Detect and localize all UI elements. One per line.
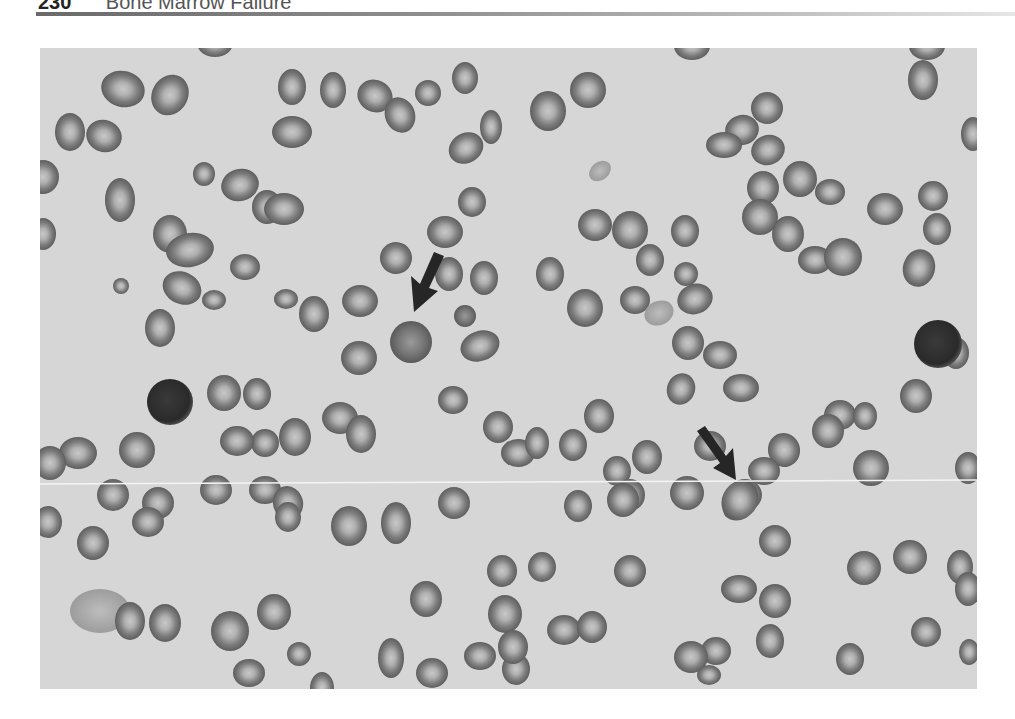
spherocyte: [274, 289, 298, 309]
red-blood-cell: [612, 211, 648, 249]
red-blood-cell: [381, 502, 411, 544]
red-blood-cell: [279, 418, 311, 456]
red-blood-cell: [607, 483, 639, 517]
red-blood-cell: [257, 594, 291, 630]
red-blood-cell: [564, 490, 592, 522]
running-head: 230 Bone Marrow Failure: [38, 0, 291, 11]
red-blood-cell: [867, 193, 903, 225]
red-blood-cell: [614, 555, 646, 587]
red-blood-cell: [570, 72, 606, 108]
red-blood-cell: [530, 91, 566, 131]
red-blood-cell: [427, 216, 463, 248]
macrocyte: [454, 305, 476, 327]
spherocyte: [230, 254, 260, 280]
blood-smear-figure: [40, 48, 977, 689]
spherocyte: [202, 290, 226, 310]
red-blood-cell: [703, 341, 737, 369]
red-blood-cell: [723, 374, 759, 402]
spherocyte: [113, 278, 129, 294]
red-blood-cell: [547, 615, 581, 645]
red-blood-cell: [498, 630, 528, 664]
red-blood-cell: [483, 411, 513, 443]
red-blood-cell: [751, 92, 783, 124]
red-blood-cell: [923, 213, 951, 245]
spherocyte: [193, 162, 215, 186]
red-blood-cell: [853, 402, 877, 430]
red-blood-cell: [836, 643, 864, 675]
red-blood-cell: [824, 238, 862, 276]
red-blood-cell: [620, 286, 650, 314]
red-blood-cell: [759, 525, 791, 557]
red-blood-cell: [584, 399, 614, 433]
spherocyte: [287, 642, 311, 666]
red-blood-cell: [671, 215, 699, 247]
red-blood-cell: [132, 507, 164, 537]
red-blood-cell: [458, 187, 486, 217]
micrograph: [40, 48, 977, 689]
red-blood-cell: [721, 575, 757, 603]
red-blood-cell: [567, 289, 603, 327]
red-blood-cell: [847, 551, 881, 585]
red-blood-cell: [264, 193, 304, 225]
red-blood-cell: [578, 209, 612, 241]
red-blood-cell: [815, 179, 845, 205]
red-blood-cell: [706, 132, 742, 158]
red-blood-cell: [251, 429, 279, 457]
header-rule: [36, 12, 1015, 16]
red-blood-cell: [145, 309, 175, 347]
red-blood-cell: [636, 244, 664, 276]
red-blood-cell: [378, 638, 404, 678]
red-blood-cell: [452, 62, 478, 94]
red-blood-cell: [243, 378, 271, 410]
red-blood-cell: [911, 617, 941, 647]
red-blood-cell: [632, 440, 662, 474]
red-blood-cell: [233, 659, 265, 687]
red-blood-cell: [772, 216, 804, 252]
red-blood-cell: [756, 624, 784, 658]
lymphocyte: [147, 379, 193, 425]
red-blood-cell: [341, 341, 377, 375]
red-blood-cell: [346, 415, 376, 453]
red-blood-cell: [410, 581, 442, 617]
red-blood-cell: [105, 178, 135, 222]
red-blood-cell: [320, 72, 346, 108]
red-blood-cell: [119, 432, 155, 468]
red-blood-cell: [488, 595, 522, 633]
red-blood-cell: [211, 611, 249, 651]
red-blood-cell: [278, 69, 306, 105]
macrocyte: [390, 321, 432, 363]
red-blood-cell: [207, 375, 241, 411]
red-blood-cell: [487, 555, 517, 587]
red-blood-cell: [275, 502, 301, 532]
red-blood-cell: [918, 181, 948, 211]
red-blood-cell: [812, 414, 844, 448]
red-blood-cell: [577, 611, 607, 643]
red-blood-cell: [438, 487, 470, 519]
spherocyte: [299, 296, 329, 332]
red-blood-cell: [783, 161, 817, 197]
red-blood-cell: [149, 604, 181, 642]
red-blood-cell: [893, 540, 927, 574]
red-blood-cell: [480, 110, 502, 144]
red-blood-cell: [900, 379, 932, 413]
red-blood-cell: [416, 658, 448, 688]
red-blood-cell: [559, 429, 587, 461]
red-blood-cell: [908, 60, 938, 100]
red-blood-cell: [77, 526, 109, 560]
red-blood-cell: [697, 665, 721, 685]
red-blood-cell: [342, 285, 378, 317]
red-blood-cell: [200, 475, 232, 505]
red-blood-cell: [759, 584, 791, 618]
smear-background: [40, 48, 977, 689]
red-blood-cell: [331, 506, 367, 546]
red-blood-cell: [55, 113, 85, 151]
red-blood-cell: [115, 602, 145, 640]
red-blood-cell: [464, 642, 496, 670]
red-blood-cell: [470, 261, 498, 295]
spherocyte: [415, 80, 441, 106]
lymphocyte: [914, 320, 962, 368]
red-blood-cell: [536, 257, 564, 291]
red-blood-cell: [528, 552, 556, 582]
spherocyte: [674, 262, 698, 286]
red-blood-cell: [220, 426, 254, 456]
